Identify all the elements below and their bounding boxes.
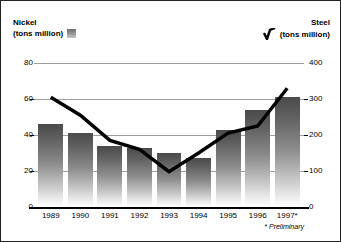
bar-swatch-icon bbox=[67, 29, 76, 38]
legend-steel-units-row: (tons million) bbox=[263, 28, 330, 40]
legend-nickel-units: (tons million) bbox=[13, 28, 63, 39]
x-axis-label: 1997* bbox=[273, 211, 303, 220]
y-axis-tick-mark-left bbox=[30, 135, 34, 136]
x-axis-label: 1993 bbox=[154, 211, 184, 220]
x-axis-label: 1990 bbox=[66, 211, 96, 220]
y-axis-tick-mark-right bbox=[304, 171, 308, 172]
legend-steel-title: Steel bbox=[263, 17, 330, 28]
y-axis-tick-right: 200 bbox=[309, 131, 337, 139]
chart-figure: Nickel (tons million) Steel (tons millio… bbox=[0, 0, 341, 242]
y-axis-tick-mark-left bbox=[30, 171, 34, 172]
x-axis-label: 1992 bbox=[125, 211, 155, 220]
y-axis-tick-left: 0 bbox=[9, 203, 33, 211]
footnote: * Preliminary bbox=[264, 223, 304, 230]
y-axis-tick-right: 100 bbox=[309, 167, 337, 175]
x-axis-label: 1996 bbox=[243, 211, 273, 220]
legend-nickel-units-row: (tons million) bbox=[13, 28, 76, 39]
y-axis-tick-right: 0 bbox=[309, 203, 337, 211]
y-axis-tick-right: 300 bbox=[309, 95, 337, 103]
y-axis-tick-mark-right bbox=[304, 99, 308, 100]
legend-steel-units: (tons million) bbox=[280, 29, 330, 40]
legend-nickel: Nickel (tons million) bbox=[13, 17, 76, 39]
x-axis-labels: 198919901991199219931994199519961997* bbox=[34, 211, 304, 220]
legend-steel: Steel (tons million) bbox=[263, 17, 330, 40]
x-axis-label: 1991 bbox=[95, 211, 125, 220]
x-axis-label: 1995 bbox=[213, 211, 243, 220]
y-axis-tick-mark-left bbox=[30, 99, 34, 100]
y-axis-tick-left: 80 bbox=[9, 59, 33, 67]
x-axis-label: 1989 bbox=[36, 211, 66, 220]
line-series-steel bbox=[34, 63, 304, 207]
line-swatch-icon bbox=[263, 28, 276, 40]
plot-area bbox=[34, 63, 304, 207]
y-axis-tick-right: 400 bbox=[309, 59, 337, 67]
legend-nickel-title: Nickel bbox=[13, 17, 76, 28]
x-axis-baseline bbox=[29, 207, 309, 209]
x-axis-label: 1994 bbox=[184, 211, 214, 220]
y-axis-tick-mark-right bbox=[304, 135, 308, 136]
